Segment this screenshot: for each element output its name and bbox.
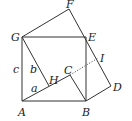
side-label-a: a xyxy=(31,82,38,95)
label-c: C xyxy=(64,64,73,77)
label-e: E xyxy=(87,31,96,44)
segment-db xyxy=(86,86,111,101)
diagram-canvas: F G E I C H D A B c b a xyxy=(0,0,132,121)
segment-ci-dotted xyxy=(70,58,98,75)
side-label-b: b xyxy=(30,63,37,76)
segment-gf xyxy=(22,9,69,37)
label-b: B xyxy=(81,106,90,119)
geometry-diagram: F G E I C H D A B c b a xyxy=(0,0,132,121)
label-h: H xyxy=(48,74,59,87)
label-g: G xyxy=(11,31,20,44)
label-i: I xyxy=(99,52,105,65)
segment-fd xyxy=(69,9,111,86)
segment-gh xyxy=(22,37,49,86)
segment-cb xyxy=(70,75,86,101)
label-f: F xyxy=(65,0,74,11)
label-d: D xyxy=(112,81,122,94)
side-label-c: c xyxy=(13,63,19,76)
label-a: A xyxy=(17,106,26,119)
segment-ac xyxy=(22,75,70,101)
